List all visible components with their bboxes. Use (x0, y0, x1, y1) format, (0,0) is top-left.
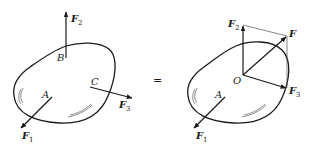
shading-mark (244, 104, 265, 115)
force-f1-label-right: F1 (195, 130, 208, 144)
left-body-outline (14, 43, 115, 123)
parallelogram-top-edge (243, 25, 287, 36)
point-c-label: C (91, 76, 99, 87)
shading-mark (68, 105, 92, 117)
force-f1-arrow-right (194, 97, 225, 128)
equals-sign: = (153, 74, 162, 87)
left-body (14, 43, 115, 123)
shading-mark (21, 88, 23, 103)
shading-mark (70, 104, 91, 115)
point-a-label: A (41, 89, 49, 100)
force-f2-label: F2 (70, 13, 83, 27)
force-f3-arrow-at-o (243, 75, 286, 88)
shading-mark (242, 105, 266, 117)
force-f1-label: F1 (21, 130, 34, 144)
point-b-label: B (56, 52, 64, 63)
point-a-label-right: A (214, 89, 222, 100)
force-f1-arrow (21, 97, 52, 128)
point-o-label: O (233, 75, 241, 86)
force-f3-label: F3 (118, 99, 131, 113)
force-f2-label-right: F2 (227, 18, 240, 32)
force-equivalence-diagram: F2 B C F3 A F1 = F2 F F3 O A F1 (0, 0, 311, 146)
resultant-f-label: F (288, 28, 297, 39)
force-f3-label-right: F3 (288, 85, 301, 99)
shading-mark (195, 88, 197, 103)
